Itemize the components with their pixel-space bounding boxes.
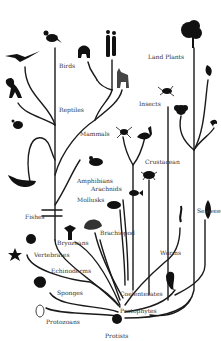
tree-icon bbox=[181, 20, 202, 48]
gorilla-icon bbox=[78, 46, 90, 59]
branch-zebra bbox=[95, 90, 122, 120]
branch-whale bbox=[28, 138, 55, 182]
turtle-icon bbox=[12, 120, 24, 130]
label-protozoans: Protozoans bbox=[46, 319, 80, 325]
fern-icon bbox=[206, 65, 212, 76]
label-mammals: Mammals bbox=[80, 131, 110, 137]
label-land-plants: Land Plants bbox=[148, 54, 184, 60]
fish-icon bbox=[129, 190, 143, 196]
label-vertebrates: Vertebrates bbox=[34, 252, 70, 258]
branch-pterosaur bbox=[25, 67, 55, 125]
branch-fishes bbox=[42, 210, 62, 216]
sponge-icon bbox=[34, 277, 46, 288]
branch-fern bbox=[194, 80, 208, 150]
tree-of-life-diagram bbox=[0, 0, 221, 341]
label-mollusks: Mollusks bbox=[77, 197, 104, 203]
bryozoan-icon bbox=[64, 225, 76, 240]
label-brachiopod: Brachiopod bbox=[100, 230, 135, 236]
cell-icon bbox=[112, 314, 122, 324]
branch-squid bbox=[120, 210, 125, 285]
branch-gorilla bbox=[88, 62, 97, 80]
label-amphibians: Amphibians bbox=[77, 178, 113, 184]
label-protists: Protists bbox=[105, 333, 128, 339]
whale-icon bbox=[8, 175, 36, 187]
silhouettes bbox=[5, 20, 217, 324]
pterosaur-icon bbox=[5, 51, 40, 62]
protozoan-icon bbox=[36, 305, 44, 317]
label-sponges: Sponges bbox=[57, 290, 83, 296]
branches bbox=[18, 48, 214, 318]
label-fishes: Fishes bbox=[25, 214, 45, 220]
branch-scorpion bbox=[133, 137, 145, 165]
spider-icon bbox=[116, 127, 132, 138]
humans-icon bbox=[106, 30, 116, 57]
label-crustacean: Crustacean bbox=[145, 159, 180, 165]
flower-icon bbox=[174, 105, 188, 115]
label-coelenterates: Coelenterates bbox=[120, 291, 163, 297]
label-echinoderms: Echinoderms bbox=[51, 268, 91, 274]
label-reptiles: Reptiles bbox=[59, 107, 84, 113]
dinosaur-icon bbox=[6, 78, 22, 98]
zebra-icon bbox=[117, 68, 129, 88]
sea-urchin-icon bbox=[26, 234, 36, 244]
branch-flower bbox=[180, 116, 194, 150]
squid-icon bbox=[107, 201, 121, 209]
label-arachnids: Arachnids bbox=[91, 186, 122, 192]
branch-fish-small bbox=[123, 200, 128, 280]
crow-icon bbox=[44, 31, 63, 44]
crab-icon bbox=[141, 171, 157, 180]
label-birds: Birds bbox=[59, 63, 75, 69]
scorpion-icon bbox=[137, 126, 152, 139]
label-seaweed: Seaweed bbox=[197, 208, 221, 214]
worm-icon bbox=[180, 206, 181, 222]
beetle-icon bbox=[158, 86, 174, 96]
label-insects: Insects bbox=[139, 101, 161, 107]
jellyfish-icon bbox=[166, 272, 174, 290]
starfish-icon bbox=[8, 248, 22, 261]
branch-seaweed-plant bbox=[194, 128, 214, 150]
label-worms: Worms bbox=[160, 250, 181, 256]
label-protophytes: Protophytes bbox=[120, 308, 157, 314]
seaweed-plant-icon bbox=[210, 120, 217, 128]
branch-primates bbox=[97, 80, 112, 90]
label-bryozoans: Bryozoans bbox=[57, 240, 89, 246]
frog-icon bbox=[89, 156, 103, 166]
